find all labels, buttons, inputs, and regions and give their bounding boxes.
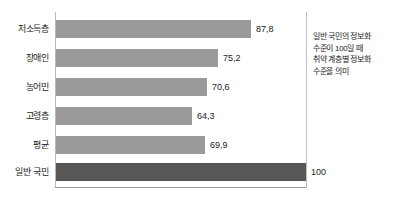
bar-value-label-2: 70,6 xyxy=(212,78,230,96)
bar-4 xyxy=(56,136,205,154)
category-label-5: 일반 국민 xyxy=(0,163,49,181)
bar-row: 평균69,9 xyxy=(0,136,400,154)
bar-1 xyxy=(56,49,218,67)
bar-3 xyxy=(56,107,192,125)
annotation-line-4: 수준을 의미 xyxy=(313,66,397,78)
x-axis-baseline xyxy=(55,187,307,188)
category-label-1: 장애인 xyxy=(0,49,49,67)
category-label-0: 저소득층 xyxy=(0,20,49,38)
bar-value-label-3: 64,3 xyxy=(197,107,215,125)
annotation-line-3: 취약 계층별 정보화 xyxy=(313,54,397,66)
bar-row: 농어민70,6 xyxy=(0,78,400,96)
bar-row: 고령층64,3 xyxy=(0,107,400,125)
bar-value-label-4: 69,9 xyxy=(210,136,228,154)
category-label-3: 고령층 xyxy=(0,107,49,125)
y-axis-line xyxy=(55,12,56,188)
annotation-line-1: 일반 국민의 정보화 xyxy=(313,31,397,43)
bar-row: 일반 국민100 xyxy=(0,163,400,181)
annotation-note: 일반 국민의 정보화 수준이 100일 때 취약 계층별 정보화 수준을 의미 xyxy=(313,31,397,77)
annotation-line-2: 수준이 100일 때 xyxy=(313,43,397,55)
annotation-divider-line xyxy=(306,12,307,188)
category-label-4: 평균 xyxy=(0,136,49,154)
bar-0 xyxy=(56,20,251,38)
category-label-2: 농어민 xyxy=(0,78,49,96)
bar-5 xyxy=(56,163,306,181)
bar-chart: 저소득층87,8장애인75,2농어민70,6고령층64,3평균69,9일반 국민… xyxy=(0,0,400,214)
bar-2 xyxy=(56,78,207,96)
bar-value-label-1: 75,2 xyxy=(223,49,241,67)
bar-value-label-5: 100 xyxy=(311,163,326,181)
bar-value-label-0: 87,8 xyxy=(256,20,274,38)
